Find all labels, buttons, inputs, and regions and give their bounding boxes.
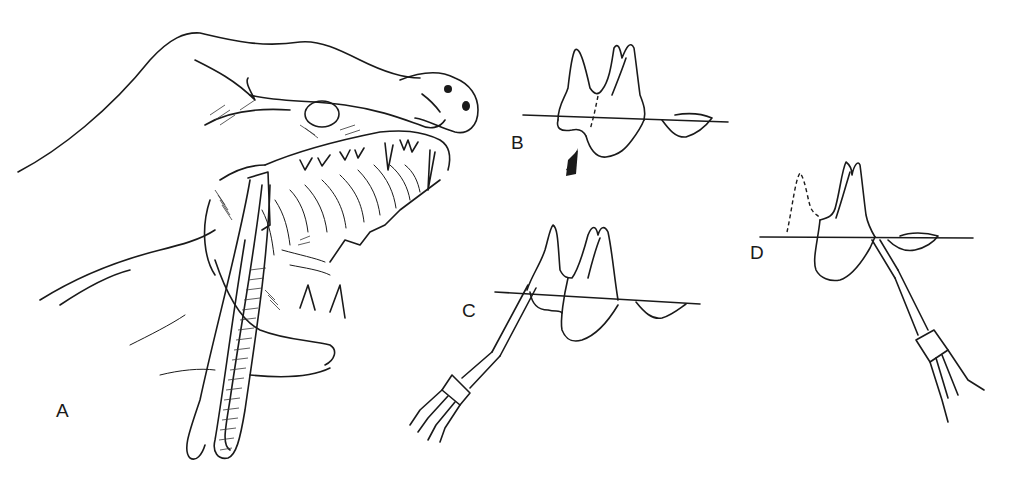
panel-label-c: C <box>462 300 476 322</box>
dental-extraction-illustration <box>0 0 1017 478</box>
panel-label-d: D <box>750 242 764 264</box>
panel-a-drawing <box>18 33 478 459</box>
panel-d-drawing <box>760 162 984 422</box>
panel-b-drawing <box>523 45 728 176</box>
panel-label-b: B <box>511 132 524 154</box>
panel-c-drawing <box>410 225 700 442</box>
panel-label-a: A <box>56 400 69 422</box>
